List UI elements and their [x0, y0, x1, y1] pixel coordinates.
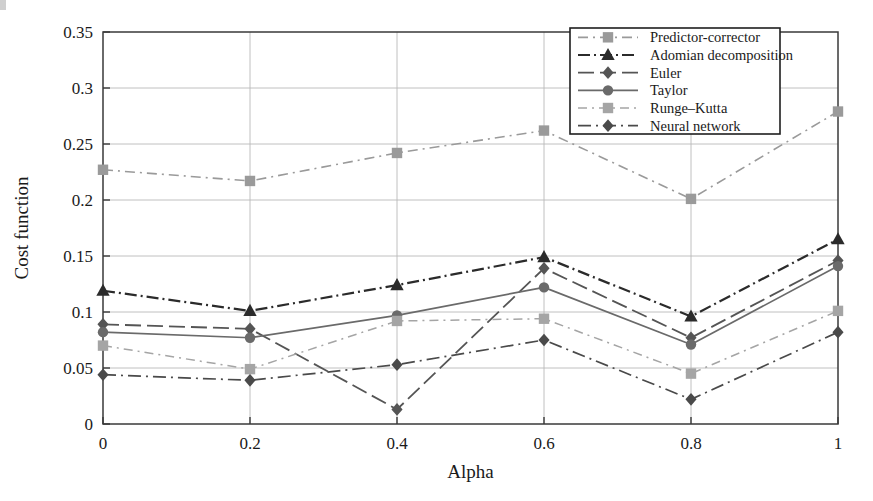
data-marker-square — [392, 316, 402, 326]
data-marker-square — [98, 340, 108, 350]
legend-label: Euler — [650, 65, 682, 81]
data-marker-circle — [539, 282, 549, 292]
data-marker-square — [603, 32, 613, 42]
data-marker-square — [392, 148, 402, 158]
data-marker-square — [539, 125, 549, 135]
y-axis-title: Cost function — [11, 176, 32, 279]
data-marker-circle — [686, 339, 696, 349]
data-marker-square — [833, 306, 843, 316]
data-marker-square — [686, 194, 696, 204]
data-marker-square — [539, 314, 549, 324]
data-marker-square — [98, 165, 108, 175]
y-tick-label: 0.1 — [72, 303, 93, 322]
x-tick-label: 0.2 — [239, 434, 260, 453]
data-marker-square — [833, 106, 843, 116]
y-tick-label: 0.15 — [63, 247, 93, 266]
data-marker-circle — [603, 85, 613, 95]
x-tick-label: 1 — [834, 434, 843, 453]
y-tick-label: 0.25 — [63, 135, 93, 154]
y-tick-label: 0.05 — [63, 359, 93, 378]
y-tick-label: 0.35 — [63, 23, 93, 42]
data-marker-square — [245, 364, 255, 374]
data-marker-circle — [833, 261, 843, 271]
x-tick-label: 0.6 — [533, 434, 554, 453]
data-marker-square — [245, 176, 255, 186]
y-tick-label: 0.2 — [72, 191, 93, 210]
y-tick-label: 0 — [85, 415, 94, 434]
x-tick-label: 0.4 — [386, 434, 408, 453]
x-axis-title: Alpha — [447, 461, 494, 482]
data-marker-square — [603, 103, 613, 113]
legend-label: Neural network — [650, 118, 741, 134]
data-marker-square — [686, 368, 696, 378]
legend-label: Runge–Kutta — [650, 100, 728, 116]
legend: Predictor-correctorAdomian decomposition… — [570, 28, 794, 134]
y-tick-label: 0.3 — [72, 79, 93, 98]
cost-function-line-chart: 00.050.10.150.20.250.30.3500.20.40.60.81… — [0, 0, 873, 501]
data-marker-circle — [245, 333, 255, 343]
data-marker-circle — [98, 327, 108, 337]
legend-label: Predictor-corrector — [650, 29, 760, 45]
legend-label: Taylor — [650, 82, 688, 98]
legend-label: Adomian decomposition — [650, 47, 794, 63]
x-tick-label: 0 — [99, 434, 108, 453]
scan-edge-artifacts — [0, 0, 6, 10]
edge-artifact — [0, 0, 6, 10]
x-tick-label: 0.8 — [680, 434, 701, 453]
figure-container: 00.050.10.150.20.250.30.3500.20.40.60.81… — [0, 0, 873, 501]
